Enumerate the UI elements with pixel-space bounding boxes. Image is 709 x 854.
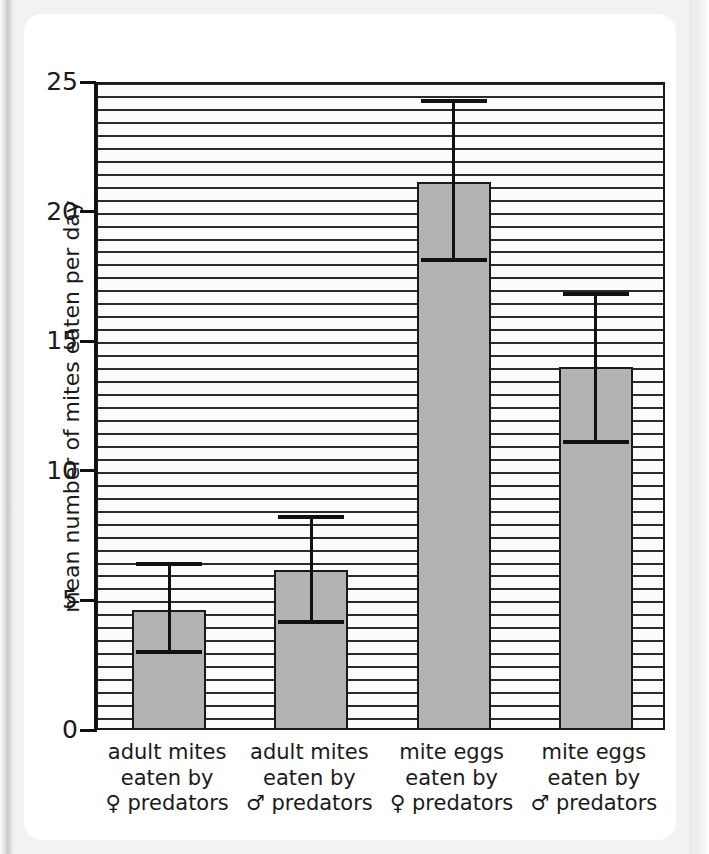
error-bar-stem [452,101,455,260]
error-bar-stem [594,294,597,442]
gridline [98,213,663,215]
gridline [98,135,663,137]
page-root: 2520151050 mean number of mites eaten pe… [0,0,709,854]
error-bar-cap-lower [421,258,487,262]
error-bar-cap-upper [421,99,487,103]
error-bar-cap-upper [563,292,629,296]
x-label-line-3: ♂ predators [509,791,679,817]
y-axis-line [94,82,97,732]
y-axis-tick [80,729,96,732]
female-symbol-icon: ♀ [105,791,120,815]
female-symbol-icon: ♀ [390,791,405,815]
gridline [98,109,663,111]
error-bar-cap-upper [278,515,344,519]
y-axis-title: mean number of mites eaten per day [59,127,84,687]
x-label-line-1: mite eggs [509,740,679,766]
y-axis-title-container: mean number of mites eaten per day [36,0,66,854]
error-bar-cap-lower [136,650,202,654]
gridline [98,251,663,253]
gridline [98,174,663,176]
gridline [98,226,663,228]
gridline [98,355,663,357]
male-symbol-icon: ♂ [530,791,549,815]
error-bar-cap-lower [278,620,344,624]
x-axis-labels: adult miteseaten by♀ predatorsadult mite… [96,740,665,840]
gridline [98,239,663,241]
gridline [98,303,663,305]
x-label-predators-word: predators [121,791,229,815]
gridline [98,148,663,150]
gridline [98,83,663,85]
error-bar-cap-upper [136,562,202,566]
x-axis-category-label: mite eggseaten by♂ predators [509,740,679,817]
error-bar-stem [168,564,171,652]
bar-chart: 2520151050 mean number of mites eaten pe… [0,0,709,854]
plot-area [96,82,665,730]
x-label-predators-word: predators [549,791,657,815]
male-symbol-icon: ♂ [246,791,265,815]
gridline [98,329,663,331]
gridline [98,264,663,266]
x-label-line-2: eaten by [509,766,679,792]
gridline [98,316,663,318]
y-axis-tick [80,81,96,84]
x-label-predators-word: predators [405,791,513,815]
gridline [98,277,663,279]
gridline [98,187,663,189]
x-label-predators-word: predators [265,791,373,815]
gridline [98,200,663,202]
gridline [98,96,663,98]
error-bar-cap-lower [563,440,629,444]
gridline [98,122,663,124]
error-bar-stem [310,517,313,622]
gridline [98,161,663,163]
gridline [98,342,663,344]
bar [417,182,491,730]
